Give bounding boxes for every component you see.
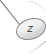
gizmo-canvas: Z: [0, 0, 46, 54]
top-right-arc: [28, 1, 45, 11]
z-axis-label: Z: [26, 24, 33, 34]
z-axis-gizmo[interactable]: Z: [0, 0, 46, 54]
bottom-right-edge: [30, 41, 46, 53]
